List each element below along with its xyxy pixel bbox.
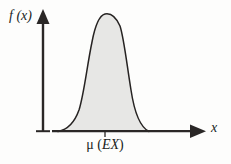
y-axis-label: f (x) xyxy=(9,9,32,23)
mean-label-ex: EX xyxy=(102,137,119,152)
mean-label-mu: μ xyxy=(86,137,94,152)
x-axis-label: x xyxy=(211,121,217,135)
right-arrow-icon xyxy=(190,125,206,138)
mean-label: μ (EX) xyxy=(86,138,123,152)
mean-label-paren-close: ) xyxy=(119,137,124,152)
up-arrow-icon xyxy=(37,9,50,24)
mean-label-paren-open: ( xyxy=(94,137,102,152)
density-curve-area xyxy=(58,14,149,132)
